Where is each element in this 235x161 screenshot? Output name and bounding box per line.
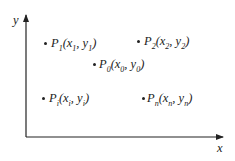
point-p2-label: P2(x2, y2) [144,35,189,51]
point-pn-label: Pn(xn, yn) [147,92,192,108]
x-axis-label: x [217,142,223,155]
point-p1-label: P1(x1, y1) [51,37,96,53]
y-axis-label: y [13,14,19,27]
point-p2-dot [137,40,140,43]
point-p0-label: P0(x0, y0) [99,58,144,74]
axes-diagram [0,0,235,161]
point-p1-dot [44,42,47,45]
point-p0-dot [93,63,96,66]
point-pi-dot [42,97,45,100]
point-pi-label: Pi(xi, yi) [49,92,89,108]
point-pn-dot [142,97,145,100]
